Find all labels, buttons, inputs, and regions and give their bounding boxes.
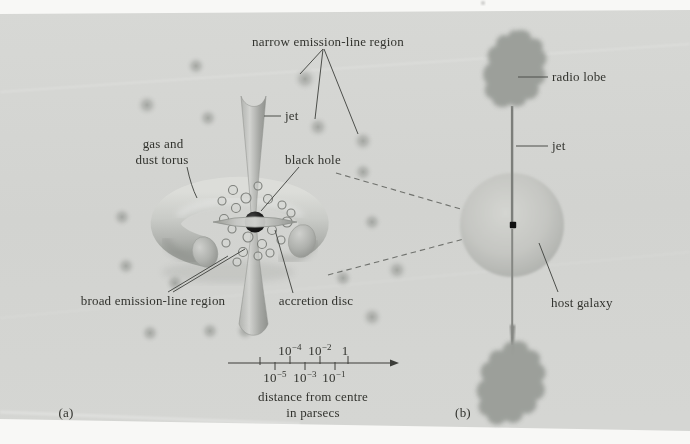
figure-canvas: narrow emission-line region jet gas and … [0,0,690,444]
nlr-cloud [333,268,353,288]
label-black-hole: black hole [285,152,341,167]
nlr-cloud [136,94,158,116]
nlr-cloud [386,259,408,281]
blr-cloud [233,258,241,266]
nlr-cloud [116,256,136,276]
blr-cloud [287,209,295,217]
blr-cloud [229,186,238,195]
nlr-cloud [198,108,218,128]
label-gas-and: gas and [143,136,184,151]
scale-caption-line1: distance from centre [258,389,368,404]
agn-structure-figure: narrow emission-line region jet gas and … [0,0,690,444]
nlr-cloud [361,306,383,328]
blr-cloud [232,204,241,213]
label-host-galaxy: host galaxy [551,295,613,310]
blr-cloud [243,232,253,242]
blr-cloud [222,239,230,247]
jet-line-upper [511,106,513,223]
nlr-cloud [307,116,329,138]
nlr-cloud [200,321,220,341]
blr-cloud [241,193,251,203]
torus-shadow [162,261,294,283]
label-jet-b: jet [551,138,566,153]
blr-cloud [278,201,286,209]
panel-a-tag: (a) [58,405,73,420]
page-edge-speck [481,1,485,5]
label-accretion-disc: accretion disc [279,293,354,308]
blr-cloud [218,197,226,205]
nlr-cloud [362,212,382,232]
label-broad-emission-line-region: broad emission-line region [81,293,226,308]
label-dust-torus: dust torus [136,152,189,167]
label-radio-lobe: radio lobe [552,69,606,84]
nlr-cloud [186,56,206,76]
blr-cloud [266,249,274,257]
blr-cloud [258,240,267,249]
blr-cloud [254,182,262,190]
panel-b-tag: (b) [455,405,471,420]
nlr-cloud [140,323,160,343]
nlr-cloud [293,67,317,91]
scale-caption-line2: in parsecs [286,405,340,420]
nlr-cloud [112,207,132,227]
label-narrow-emission-line-region: narrow emission-line region [252,34,404,49]
galaxy-center-dot [510,222,516,228]
scale-tick-label-1: 1 [342,343,349,358]
nlr-cloud [352,130,374,152]
blr-cloud [254,252,262,260]
label-jet-a: jet [284,108,299,123]
